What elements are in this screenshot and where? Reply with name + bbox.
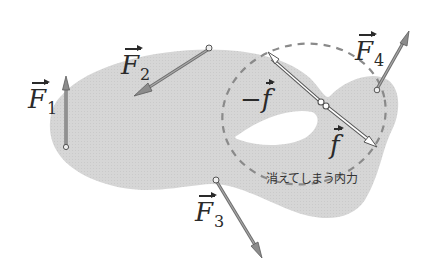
- caption-internal-force: 消えてしまう内力: [266, 169, 357, 186]
- f4-subscript: 4: [374, 51, 384, 70]
- f2-subscript: 2: [140, 65, 150, 84]
- f-symbol: f: [330, 132, 340, 158]
- label-f2: F2: [121, 52, 150, 83]
- f1-subscript: 1: [47, 99, 57, 118]
- label-f: f: [330, 132, 340, 158]
- f4-symbol: F: [355, 38, 373, 64]
- f3-subscript: 3: [214, 212, 224, 231]
- f1-symbol: F: [28, 86, 46, 112]
- neg-f-minus-sign: −: [240, 84, 262, 114]
- label-neg-f: −f: [240, 86, 271, 112]
- force-diagram: F1 F2 F3 F4 −f f 消えてしまう内力: [0, 0, 435, 278]
- f3-symbol: F: [195, 199, 213, 225]
- f2-symbol: F: [121, 52, 139, 78]
- neg-f-symbol: f: [262, 86, 272, 112]
- label-f1: F1: [28, 86, 57, 117]
- label-f4: F4: [355, 38, 384, 69]
- label-f3: F3: [195, 199, 224, 230]
